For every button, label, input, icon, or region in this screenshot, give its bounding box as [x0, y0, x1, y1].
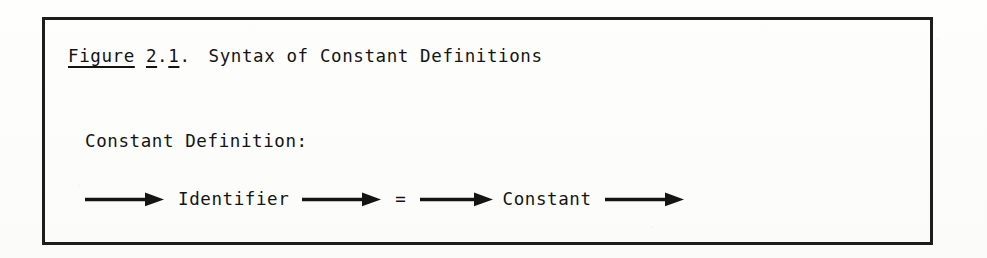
long-arrow-right-icon: [85, 189, 165, 209]
figure-caption-number: 2: [146, 46, 157, 66]
terminal-constant: Constant: [503, 186, 592, 212]
figure-caption-subnumber: 1: [168, 46, 179, 66]
figure-caption-label: Figure: [68, 46, 135, 66]
terminal-equals: =: [395, 186, 406, 212]
syntax-diagram: Identifier = Constant: [85, 186, 685, 212]
figure-caption-space-1: [135, 46, 146, 66]
terminal-identifier: Identifier: [178, 186, 289, 212]
figure-caption: Figure 2.1.Syntax of Constant Definition…: [68, 45, 543, 67]
long-arrow-right-icon: [302, 189, 382, 209]
scanned-page: Figure 2.1.Syntax of Constant Definition…: [0, 0, 987, 258]
long-arrow-right-icon: [605, 189, 685, 209]
figure-caption-title: Syntax of Constant Definitions: [209, 46, 543, 66]
figure-caption-dot-1: .: [157, 46, 168, 66]
figure-caption-dot-2: .: [179, 46, 190, 66]
production-name-label: Constant Definition:: [85, 130, 308, 152]
long-arrow-right-icon: [420, 189, 494, 209]
